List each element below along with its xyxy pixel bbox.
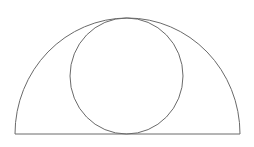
geometry-figure: [0, 0, 254, 147]
diagram-canvas: [0, 0, 254, 147]
inscribed-circle: [70, 18, 183, 134]
semicircle-arc: [15, 18, 240, 134]
